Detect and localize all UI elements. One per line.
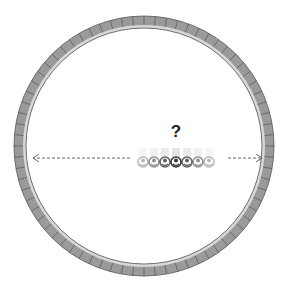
particle (204, 148, 214, 167)
particle (149, 148, 159, 167)
particle (193, 148, 203, 167)
particle (138, 148, 148, 167)
particle (182, 148, 192, 167)
particle-row (138, 148, 214, 167)
particle (171, 148, 181, 167)
ring-diagram (0, 0, 290, 282)
diagram: ? (0, 0, 290, 282)
particle (160, 148, 170, 167)
question-mark: ? (166, 122, 186, 142)
segmented-ring (14, 16, 274, 276)
